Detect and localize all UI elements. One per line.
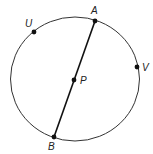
circle-diagram: A U V P B [0,0,153,154]
label-b: B [48,141,55,152]
label-a: A [90,5,98,16]
label-u: U [25,18,33,29]
point-u [32,30,37,35]
point-v [135,65,140,70]
label-v: V [142,62,150,73]
point-b [52,135,57,140]
point-a [93,19,98,24]
label-p: P [80,75,87,86]
point-p [72,78,77,83]
